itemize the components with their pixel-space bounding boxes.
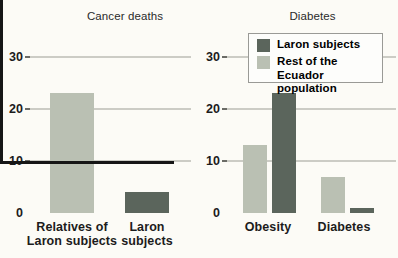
rest-of-population-swatch <box>257 56 270 69</box>
y-axis-line <box>0 0 3 161</box>
bar-obesity-laron-subjects <box>272 93 296 213</box>
y-tick-20 <box>222 108 227 110</box>
legend-label: Rest of the Ecuador population <box>277 55 376 96</box>
y-tick-label-10: 10 <box>196 153 220 169</box>
bar-obesity-rest-of-the-ecuador-population <box>243 145 267 213</box>
y-tick-10 <box>222 160 227 162</box>
y-tick-label-20: 20 <box>196 101 220 117</box>
legend-label: Laron subjects <box>277 38 360 52</box>
laron-study-figure: Cancer deaths 0102030Relatives ofLaron s… <box>0 0 398 258</box>
x-axis-line <box>0 161 174 164</box>
bar-diabetes-laron-subjects <box>350 208 374 213</box>
legend-item-rest-of-population: Rest of the Ecuador population <box>257 55 376 96</box>
gridline-20 <box>227 108 396 109</box>
y-tick-label-30: 30 <box>196 49 220 65</box>
legend-item-laron-subjects: Laron subjects <box>257 38 376 52</box>
laron-subjects-swatch <box>257 39 270 52</box>
y-tick-30 <box>222 56 227 58</box>
bar-diabetes-rest-of-the-ecuador-population <box>321 177 345 213</box>
y-tick-label-0: 0 <box>196 205 220 221</box>
x-label-diabetes: Diabetes <box>299 221 389 235</box>
x-label-line: Diabetes <box>299 221 389 235</box>
legend: Laron subjects Rest of the Ecuador popul… <box>248 33 383 83</box>
